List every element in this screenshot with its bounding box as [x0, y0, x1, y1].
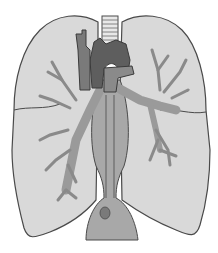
- left-lung: [120, 16, 210, 235]
- node: [100, 207, 110, 219]
- anatomy-drawing: [0, 0, 218, 253]
- lungs-illustration: [0, 0, 218, 253]
